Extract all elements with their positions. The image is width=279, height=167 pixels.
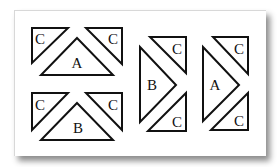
label-c: C (172, 41, 182, 57)
label-a: A (210, 77, 221, 93)
group-bottom-left: C B C (32, 93, 122, 140)
label-c: C (35, 31, 45, 47)
label-c: C (108, 97, 118, 113)
label-c: C (234, 113, 244, 129)
group-far-right: C A C (203, 37, 248, 130)
label-a: A (72, 55, 83, 71)
group-middle-right: C B C (140, 37, 186, 131)
label-c: C (108, 31, 118, 47)
label-c: C (35, 97, 45, 113)
label-c: C (172, 114, 182, 130)
group-top-left: C A C (32, 28, 122, 75)
label-b: B (73, 120, 83, 136)
triangle-dissection-diagram: C A C C B C C B C C A C (0, 0, 279, 167)
label-c: C (234, 41, 244, 57)
label-b: B (147, 77, 157, 93)
